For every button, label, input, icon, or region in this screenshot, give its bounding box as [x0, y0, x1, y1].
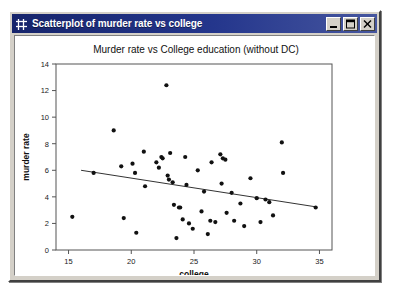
data-point	[225, 211, 229, 215]
data-point	[220, 181, 224, 185]
data-point	[166, 174, 170, 178]
data-point	[271, 213, 275, 217]
window-title: Scatterplot of murder rate vs college	[32, 18, 324, 29]
data-point	[191, 227, 195, 231]
x-tick-label: 20	[127, 257, 135, 266]
minimize-icon[interactable]	[326, 17, 341, 31]
data-point	[183, 155, 187, 159]
close-icon[interactable]	[360, 17, 375, 31]
data-point	[258, 220, 262, 224]
data-point	[154, 160, 158, 164]
data-point	[230, 191, 234, 195]
data-point	[174, 236, 178, 240]
data-point	[281, 171, 285, 175]
data-point	[172, 203, 176, 207]
y-tick-label: 14	[41, 60, 49, 69]
data-point	[178, 205, 182, 209]
window-titlebar[interactable]: Scatterplot of murder rate vs college	[12, 14, 377, 33]
data-point	[143, 184, 147, 188]
data-point	[248, 176, 252, 180]
data-point	[187, 221, 191, 225]
data-point	[242, 224, 246, 228]
data-point	[92, 171, 96, 175]
data-point	[181, 217, 185, 221]
x-axis-label: college	[179, 269, 209, 276]
data-point	[263, 197, 267, 201]
x-tick-label: 25	[190, 257, 198, 266]
data-point	[184, 183, 188, 187]
data-point	[164, 83, 168, 87]
data-point	[314, 205, 318, 209]
plot-grid-icon	[15, 17, 28, 30]
data-point	[267, 200, 271, 204]
data-point	[202, 189, 206, 193]
data-point	[255, 196, 259, 200]
application-window: Scatterplot of murder rate vs college	[8, 10, 381, 282]
y-axis-label: murder rate	[21, 133, 31, 181]
data-point	[196, 168, 200, 172]
data-point	[218, 152, 222, 156]
y-tick-label: 0	[45, 246, 49, 255]
x-tick-label: 30	[253, 257, 261, 266]
data-point	[161, 156, 165, 160]
data-point	[213, 220, 217, 224]
data-point	[133, 171, 137, 175]
data-point	[171, 180, 175, 184]
data-point	[209, 160, 213, 164]
data-point	[130, 162, 134, 166]
x-tick-label: 15	[64, 257, 72, 266]
data-point	[134, 231, 138, 235]
scatterplot: Murder rate vs College education (withou…	[15, 36, 374, 275]
data-point	[119, 164, 123, 168]
plot-frame	[56, 64, 332, 250]
data-point	[223, 158, 227, 162]
data-point	[199, 209, 203, 213]
window-client-area: Murder rate vs College education (withou…	[14, 35, 375, 276]
data-point	[206, 232, 210, 236]
plot-canvas: Murder rate vs College education (withou…	[15, 36, 375, 276]
data-point	[157, 166, 161, 170]
data-point	[112, 128, 116, 132]
data-point	[168, 151, 172, 155]
data-point	[70, 215, 74, 219]
maximize-icon[interactable]	[343, 17, 358, 31]
y-tick-label: 4	[45, 193, 49, 202]
y-tick-label: 6	[45, 166, 49, 175]
x-tick-label: 35	[315, 257, 323, 266]
data-point	[280, 140, 284, 144]
y-tick-label: 10	[41, 113, 49, 122]
data-point	[208, 219, 212, 223]
y-tick-label: 8	[45, 140, 49, 149]
data-point	[232, 219, 236, 223]
data-point	[238, 201, 242, 205]
data-point	[122, 216, 126, 220]
data-point	[142, 150, 146, 154]
y-tick-label: 2	[45, 219, 49, 228]
chart-title: Murder rate vs College education (withou…	[93, 44, 299, 55]
y-tick-label: 12	[41, 86, 49, 95]
data-point	[167, 177, 171, 181]
